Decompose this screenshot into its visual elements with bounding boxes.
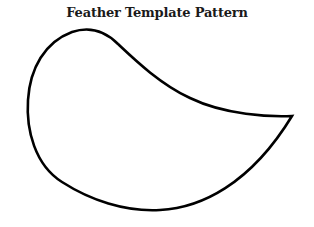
feather-template-diagram — [0, 0, 314, 227]
feather-outline-path — [28, 29, 292, 210]
